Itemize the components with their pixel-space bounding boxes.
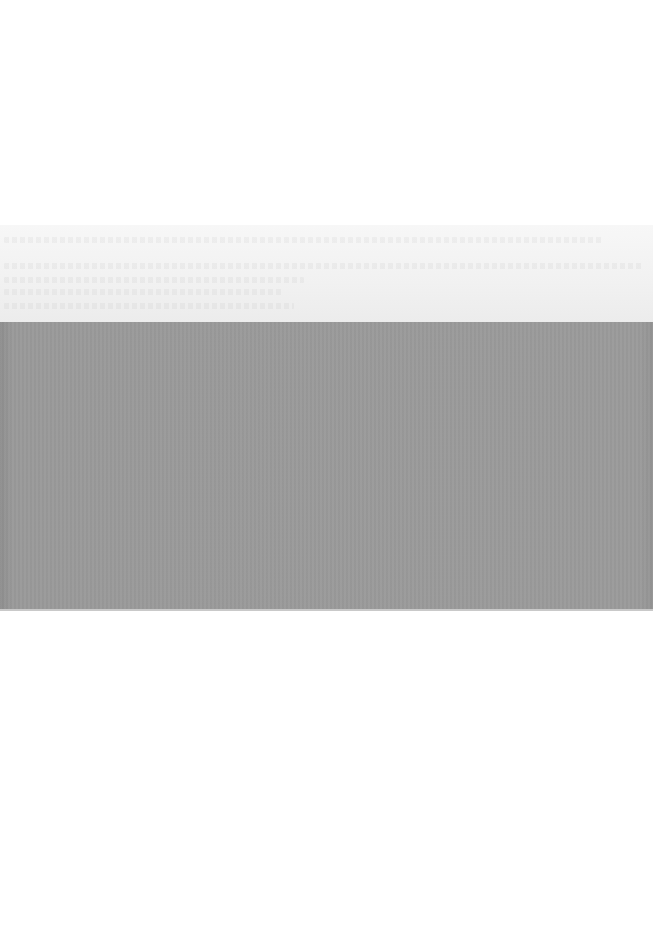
faint-text-band (0, 225, 653, 322)
scanned-page (0, 0, 653, 951)
ghost-text-line (4, 289, 284, 295)
bottom-margin (0, 611, 653, 951)
top-margin (0, 0, 653, 225)
ghost-text-line (4, 303, 294, 309)
ghost-text-line (4, 263, 644, 269)
ghost-text-line (4, 277, 304, 283)
ghost-text-line (4, 237, 604, 243)
gray-block (0, 322, 653, 610)
